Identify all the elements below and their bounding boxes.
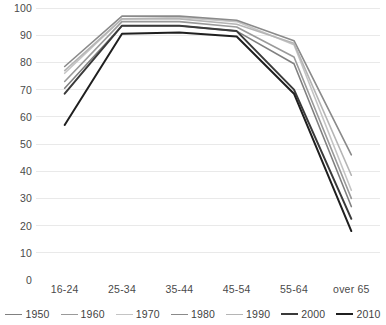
y-axis-tick-label: 30 bbox=[20, 192, 32, 204]
legend-label: 1990 bbox=[246, 308, 270, 320]
x-axis-tick-label: 45-54 bbox=[223, 283, 251, 295]
x-axis-tick-label: 25-34 bbox=[108, 283, 136, 295]
legend-label: 1980 bbox=[191, 308, 215, 320]
y-axis-tick-label: 70 bbox=[20, 84, 32, 96]
legend-label: 2010 bbox=[356, 308, 380, 320]
legend-swatch-icon bbox=[226, 314, 243, 315]
line-chart: 1009080706050403020100 16-2425-3435-4445… bbox=[0, 0, 386, 325]
legend-swatch-icon bbox=[61, 314, 78, 315]
x-axis-tick-label: 55-64 bbox=[280, 283, 308, 295]
y-axis-tick-label: 60 bbox=[20, 111, 32, 123]
legend-label: 1960 bbox=[81, 308, 105, 320]
legend-item-1990[interactable]: 1990 bbox=[226, 308, 270, 320]
chart-legend: 1950196019701980199020002010 bbox=[0, 306, 386, 322]
legend-swatch-icon bbox=[5, 314, 22, 315]
legend-item-1980[interactable]: 1980 bbox=[171, 308, 215, 320]
legend-item-2000[interactable]: 2000 bbox=[281, 308, 325, 320]
series-line-2010 bbox=[65, 32, 352, 231]
legend-label: 2000 bbox=[301, 308, 325, 320]
x-axis-tick-label: 16-24 bbox=[51, 283, 79, 295]
y-axis-tick-label: 40 bbox=[20, 165, 32, 177]
legend-swatch-icon bbox=[336, 313, 353, 315]
series-line-1950 bbox=[65, 26, 352, 207]
y-axis-tick-label: 50 bbox=[20, 138, 32, 150]
y-axis-tick-label: 20 bbox=[20, 220, 32, 232]
legend-item-2010[interactable]: 2010 bbox=[336, 308, 380, 320]
x-axis-tick-label: 35-44 bbox=[165, 283, 193, 295]
x-axis: 16-2425-3435-4445-5455-64over 65 bbox=[36, 283, 380, 301]
legend-swatch-icon bbox=[171, 314, 188, 315]
legend-swatch-icon bbox=[281, 313, 298, 315]
y-axis-tick-label: 80 bbox=[20, 56, 32, 68]
y-axis: 1009080706050403020100 bbox=[0, 8, 32, 280]
legend-label: 1970 bbox=[136, 308, 160, 320]
y-axis-tick-label: 0 bbox=[26, 274, 32, 286]
y-axis-tick-label: 90 bbox=[20, 29, 32, 41]
legend-label: 1950 bbox=[25, 308, 49, 320]
legend-item-1950[interactable]: 1950 bbox=[5, 308, 49, 320]
legend-item-1970[interactable]: 1970 bbox=[116, 308, 160, 320]
x-axis-tick-label: over 65 bbox=[333, 283, 369, 295]
plot-area bbox=[36, 8, 380, 280]
y-axis-tick-label: 10 bbox=[20, 247, 32, 259]
legend-swatch-icon bbox=[116, 314, 133, 315]
y-axis-tick-label: 100 bbox=[14, 2, 32, 14]
legend-item-1960[interactable]: 1960 bbox=[61, 308, 105, 320]
series-line-2000 bbox=[65, 26, 352, 219]
series-line-1960 bbox=[65, 22, 352, 199]
series-lines bbox=[36, 8, 380, 280]
